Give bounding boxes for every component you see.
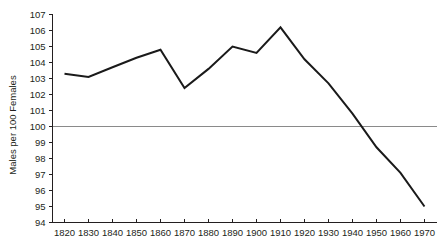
y-tick-label-98: 98 [35, 153, 46, 164]
y-tick-label-99: 99 [35, 137, 46, 148]
y-tick-label-100: 100 [30, 121, 46, 132]
x-tick-label-1870: 1870 [174, 227, 195, 238]
x-tick-label-1930: 1930 [318, 227, 339, 238]
x-axis-ticks [65, 219, 425, 223]
x-tick-label-1950: 1950 [366, 227, 387, 238]
y-tick-label-103: 103 [30, 73, 46, 84]
plot-area: 949596979899100101102103104105106107 182… [7, 9, 437, 238]
data-series-line [65, 27, 425, 206]
x-tick-label-1890: 1890 [222, 227, 243, 238]
y-axis-ticks [49, 15, 53, 223]
x-axis-tick-labels: 1820183018401850186018701880189019001910… [54, 227, 435, 238]
x-tick-label-1960: 1960 [390, 227, 411, 238]
y-tick-label-106: 106 [30, 25, 46, 36]
line-chart: 949596979899100101102103104105106107 182… [0, 0, 444, 243]
y-tick-label-102: 102 [30, 89, 46, 100]
y-axis-title: Males per 100 Females [7, 75, 18, 175]
x-tick-label-1830: 1830 [78, 227, 99, 238]
axis-frame [53, 15, 437, 223]
y-tick-label-105: 105 [30, 41, 46, 52]
y-tick-label-94: 94 [35, 217, 46, 228]
x-tick-label-1880: 1880 [198, 227, 219, 238]
y-tick-label-104: 104 [30, 57, 46, 68]
y-tick-label-96: 96 [35, 185, 46, 196]
x-tick-label-1860: 1860 [150, 227, 171, 238]
y-axis-tick-labels: 949596979899100101102103104105106107 [30, 9, 46, 228]
x-tick-label-1940: 1940 [342, 227, 363, 238]
x-tick-label-1900: 1900 [246, 227, 267, 238]
y-tick-label-97: 97 [35, 169, 46, 180]
x-tick-label-1920: 1920 [294, 227, 315, 238]
x-tick-label-1850: 1850 [126, 227, 147, 238]
x-tick-label-1910: 1910 [270, 227, 291, 238]
y-tick-label-101: 101 [30, 105, 46, 116]
x-tick-label-1970: 1970 [414, 227, 435, 238]
x-tick-label-1840: 1840 [102, 227, 123, 238]
chart-canvas: 949596979899100101102103104105106107 182… [0, 0, 444, 243]
y-tick-label-107: 107 [30, 9, 46, 20]
y-tick-label-95: 95 [35, 201, 46, 212]
x-tick-label-1820: 1820 [54, 227, 75, 238]
